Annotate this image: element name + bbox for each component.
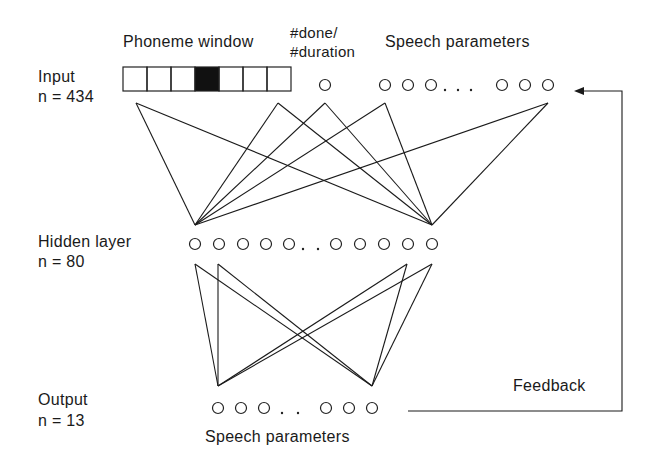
hidden-output-connections <box>195 264 432 386</box>
network-diagram <box>0 0 657 466</box>
done-duration-node <box>320 80 331 91</box>
feedback-arrow <box>408 87 622 411</box>
phoneme-cell <box>219 67 243 91</box>
phoneme-cell <box>147 67 171 91</box>
input-speech-parameter-nodes <box>380 80 554 92</box>
phoneme-window <box>123 67 291 91</box>
phoneme-cell <box>267 67 291 91</box>
input-hidden-connections <box>136 103 548 225</box>
phoneme-cell <box>171 67 195 91</box>
hidden-layer-nodes <box>190 239 438 251</box>
arrowhead-icon <box>574 87 584 95</box>
output-layer-nodes <box>213 403 378 415</box>
phoneme-cell <box>243 67 267 91</box>
phoneme-cell <box>123 67 147 91</box>
phoneme-cell-active <box>195 67 219 91</box>
